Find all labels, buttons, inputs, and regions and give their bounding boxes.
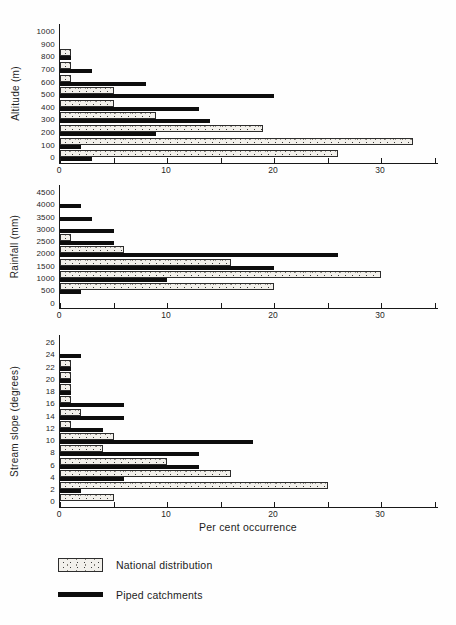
category-row-16: 16: [60, 396, 438, 408]
x-tick-label: 0: [57, 510, 62, 519]
legend-label-national-distribution: National distribution: [116, 559, 212, 571]
category-row-4: 4: [60, 470, 438, 482]
category-row-26: 26: [60, 335, 438, 347]
category-row-1000: 1000: [60, 24, 438, 37]
x-axis-tick: [381, 158, 382, 163]
x-tick-label: 20: [268, 311, 277, 320]
figure-page: Altitude (m) 100090080070060050040030020…: [0, 0, 456, 625]
y-tick-label: 2: [50, 486, 55, 494]
category-row-24: 24: [60, 347, 438, 359]
bar-national-distribution: [60, 360, 71, 367]
category-row-900: 900: [60, 37, 438, 50]
x-axis-tick: [60, 502, 61, 507]
category-row-4500: 4500: [60, 185, 438, 197]
x-tick-label: 10: [161, 510, 170, 519]
bar-national-distribution: [60, 138, 413, 145]
x-axis-tick: [114, 502, 115, 507]
bar-national-distribution: [60, 87, 114, 94]
bar-piped-catchments: [60, 157, 92, 161]
bar-piped-catchments: [60, 379, 71, 383]
x-axis-tick: [114, 303, 115, 308]
y-tick-label: 0: [50, 498, 55, 506]
bar-national-distribution: [60, 409, 81, 416]
bar-piped-catchments: [60, 403, 124, 407]
bar-piped-catchments: [60, 452, 199, 456]
bar-piped-catchments: [60, 367, 71, 371]
x-axis-tick: [435, 502, 436, 507]
x-tick-label: 10: [161, 311, 170, 320]
x-axis-tick: [221, 303, 222, 308]
bar-national-distribution: [60, 482, 328, 489]
legend-label-piped-catchments: Piped catchments: [116, 589, 203, 601]
x-axis-tick: [167, 303, 168, 308]
y-tick-label: 24: [46, 351, 55, 359]
y-tick-label: 3500: [36, 214, 55, 222]
bar-piped-catchments: [60, 428, 103, 432]
y-tick-label: 0: [50, 154, 55, 162]
bar-piped-catchments: [60, 416, 124, 420]
y-tick-label: 0: [50, 300, 55, 308]
y-tick-label: 200: [41, 129, 55, 137]
y-tick-label: 3000: [36, 226, 55, 234]
rainfall-x-tick-labels: 0102030: [59, 311, 437, 323]
x-tick-label: 10: [161, 166, 170, 175]
bar-piped-catchments: [60, 107, 199, 111]
x-axis-tick: [435, 303, 436, 308]
y-tick-label: 600: [41, 79, 55, 87]
bar-piped-catchments: [60, 229, 114, 233]
bar-national-distribution: [60, 421, 71, 428]
category-row-100: 100: [60, 138, 438, 151]
y-tick-label: 2000: [36, 250, 55, 258]
piped-catchments-swatch: [58, 592, 103, 597]
y-tick-label: 400: [41, 104, 55, 112]
y-tick-label: 300: [41, 116, 55, 124]
category-row-10: 10: [60, 433, 438, 445]
category-row-200: 200: [60, 125, 438, 138]
y-tick-label: 22: [46, 364, 55, 372]
bar-national-distribution: [60, 62, 71, 69]
bar-piped-catchments: [60, 391, 71, 395]
y-tick-label: 1000: [36, 28, 55, 36]
x-axis-tick: [435, 158, 436, 163]
category-row-400: 400: [60, 100, 438, 113]
x-axis-tick: [221, 158, 222, 163]
bar-piped-catchments: [60, 477, 124, 481]
bar-national-distribution: [60, 259, 231, 266]
rainfall-plot-area: 450040003500300025002000150010005000: [59, 185, 438, 309]
bar-piped-catchments: [60, 217, 92, 221]
category-row-300: 300: [60, 112, 438, 125]
altitude-x-tick-labels: 0102030: [59, 166, 437, 178]
bar-national-distribution: [60, 246, 124, 253]
category-row-500: 500: [60, 283, 438, 295]
bar-national-distribution: [60, 384, 71, 391]
x-axis-tick: [381, 303, 382, 308]
bar-piped-catchments: [60, 119, 210, 123]
y-tick-label: 500: [41, 287, 55, 295]
bar-piped-catchments: [60, 354, 81, 358]
bar-national-distribution: [60, 49, 71, 56]
bar-national-distribution: [60, 75, 71, 82]
category-row-2500: 2500: [60, 234, 438, 246]
stream-slope-axis-title-text: Stream slope (degrees): [10, 365, 21, 476]
x-axis-tick: [274, 502, 275, 507]
y-tick-label: 100: [41, 142, 55, 150]
bar-national-distribution: [60, 112, 156, 119]
category-row-2000: 2000: [60, 246, 438, 258]
bar-piped-catchments: [60, 253, 338, 257]
x-axis-tick: [328, 502, 329, 507]
x-axis-tick: [60, 158, 61, 163]
bar-piped-catchments: [60, 266, 274, 270]
category-row-1000: 1000: [60, 271, 438, 283]
category-row-500: 500: [60, 87, 438, 100]
category-row-4000: 4000: [60, 197, 438, 209]
bar-piped-catchments: [60, 489, 81, 493]
bar-national-distribution: [60, 125, 263, 132]
category-row-600: 600: [60, 75, 438, 88]
category-row-6: 6: [60, 458, 438, 470]
bar-national-distribution: [60, 150, 338, 157]
bar-national-distribution: [60, 494, 114, 501]
x-tick-label: 20: [268, 166, 277, 175]
altitude-axis-title: Altitude (m): [2, 24, 28, 163]
category-row-2: 2: [60, 482, 438, 494]
rainfall-axis-title: Rainfall (mm): [2, 185, 28, 308]
